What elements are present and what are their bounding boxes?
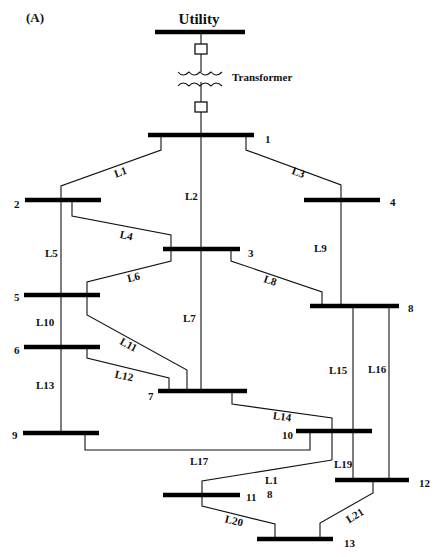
- breaker-upper-icon: [195, 44, 207, 54]
- bus-2-label: 2: [14, 198, 20, 210]
- line-L5-label: L5: [45, 247, 58, 259]
- panel-label: (A): [26, 10, 44, 25]
- line-L19-label: L19: [334, 458, 353, 470]
- line-L3-label: L3: [290, 164, 307, 180]
- line-L8-label: L8: [262, 272, 278, 288]
- bus-11-label: 11: [246, 491, 256, 503]
- line-L17: [85, 431, 310, 450]
- line-L9-label: L9: [314, 242, 327, 254]
- bus-8-label: 8: [408, 302, 414, 314]
- line-L11-label: L11: [118, 335, 139, 354]
- line-L1: [61, 135, 161, 200]
- line-L6-label: L6: [126, 269, 142, 284]
- utility-feeder: [178, 32, 222, 135]
- breaker-lower-icon: [195, 102, 207, 112]
- line-L16-label: L16: [368, 363, 387, 375]
- line-L2-label: L2: [185, 190, 198, 202]
- line-L20-label: L20: [224, 512, 245, 528]
- line-L21: [320, 480, 373, 539]
- line-L12-label: L12: [114, 368, 135, 384]
- line-L18-label-line2: 8: [267, 488, 273, 500]
- bus-5-label: 5: [14, 291, 20, 303]
- line-L21-label: L21: [344, 505, 366, 525]
- line-L4: [72, 200, 171, 249]
- bus-10-label: 10: [282, 429, 294, 441]
- bus-13-label: 13: [344, 537, 356, 549]
- line-L14-label: L14: [272, 409, 292, 424]
- line-L10-label: L10: [36, 316, 55, 328]
- line-L7-label: L7: [183, 312, 196, 324]
- bus-4-label: 4: [390, 196, 396, 208]
- bus-12-label: 12: [419, 477, 431, 489]
- line-L4-label: L4: [119, 228, 135, 243]
- bus-7-label: 7: [148, 390, 154, 402]
- bus-9-label: 9: [12, 429, 18, 441]
- bus-3-label: 3: [248, 247, 254, 259]
- transformer-label: Transformer: [232, 71, 292, 83]
- utility-title: Utility: [179, 11, 220, 27]
- distribution-network-diagram: (A) Utility Transformer: [0, 0, 441, 557]
- line-L13-label: L13: [36, 379, 55, 391]
- line-L17-label: L17: [190, 455, 209, 467]
- bus-1-label: 1: [265, 133, 271, 145]
- line-L18-label-line1: L1: [265, 474, 278, 486]
- bus-6-label: 6: [14, 344, 20, 356]
- line-L15-label: L15: [329, 364, 348, 376]
- transformer-icon: [178, 72, 222, 86]
